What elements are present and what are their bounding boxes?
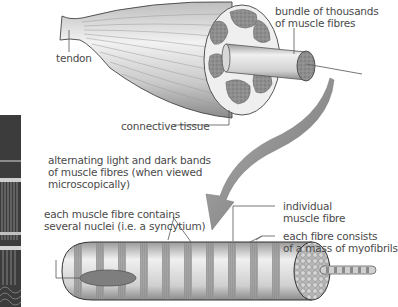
label-bundle-line2: of muscle fibres: [275, 17, 355, 29]
micrograph-strip: [0, 115, 21, 307]
label-tendon: tendon: [56, 52, 92, 64]
label-bands-line2: of muscle fibres (when viewed: [48, 166, 202, 178]
label-bands-line1: alternating light and dark bands: [48, 154, 211, 166]
label-myofibrils-line2: of a mass of myofibrils: [283, 242, 398, 254]
label-nuclei-line1: each muscle fibre contains: [44, 208, 180, 220]
label-connective-tissue: connective tissue: [121, 120, 209, 132]
label-bundle-line1: bundle of thousands: [275, 5, 379, 17]
label-bands-line3: microscopically): [48, 178, 130, 190]
label-individual-fibre-line2: muscle fibre: [283, 212, 345, 224]
label-individual-fibre-line1: individual: [283, 200, 332, 212]
label-nuclei-line2: several nuclei (i.e. a syncytium): [44, 220, 205, 232]
label-myofibrils-line1: each fibre consists: [283, 230, 377, 242]
nucleus-shape: [80, 270, 136, 286]
